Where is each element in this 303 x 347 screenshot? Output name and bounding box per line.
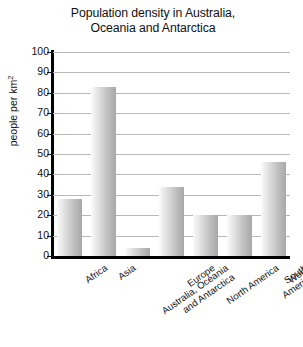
y-tick-label: 30: [9, 189, 49, 200]
y-tick-label: 100: [9, 46, 49, 57]
plot-area: [53, 52, 290, 256]
gridline: [53, 52, 290, 53]
bar: [91, 87, 116, 256]
gridline: [53, 154, 290, 155]
y-tick-label: 20: [9, 209, 49, 220]
x-tick-label: Asia: [116, 263, 137, 282]
chart-title: Population density in Australia, Oceania…: [28, 6, 278, 36]
bar-chart: Population density in Australia, Oceania…: [0, 0, 303, 347]
y-tick-label: 50: [9, 148, 49, 159]
chart-title-line-1: Population density in Australia,: [28, 6, 278, 21]
bar: [57, 199, 82, 256]
chart-title-line-2: Oceania and Antarctica: [28, 21, 278, 36]
y-tick-label: 80: [9, 87, 49, 98]
bar: [227, 215, 252, 256]
x-axis-line: [51, 256, 290, 259]
y-tick-label: 10: [9, 230, 49, 241]
bar: [159, 187, 184, 256]
x-tick-label: Africa: [83, 263, 109, 286]
gridline: [53, 72, 290, 73]
gridline: [53, 134, 290, 135]
gridline: [53, 93, 290, 94]
y-tick-label: 90: [9, 66, 49, 77]
bar: [193, 215, 218, 256]
bar: [125, 248, 150, 256]
y-tick-label: 40: [9, 168, 49, 179]
bar: [261, 162, 286, 256]
gridline: [53, 174, 290, 175]
y-tick-label: 70: [9, 107, 49, 118]
gridline: [53, 113, 290, 114]
y-tick-mark: [47, 256, 53, 257]
y-tick-label: 0: [9, 250, 49, 261]
y-tick-label: 60: [9, 128, 49, 139]
